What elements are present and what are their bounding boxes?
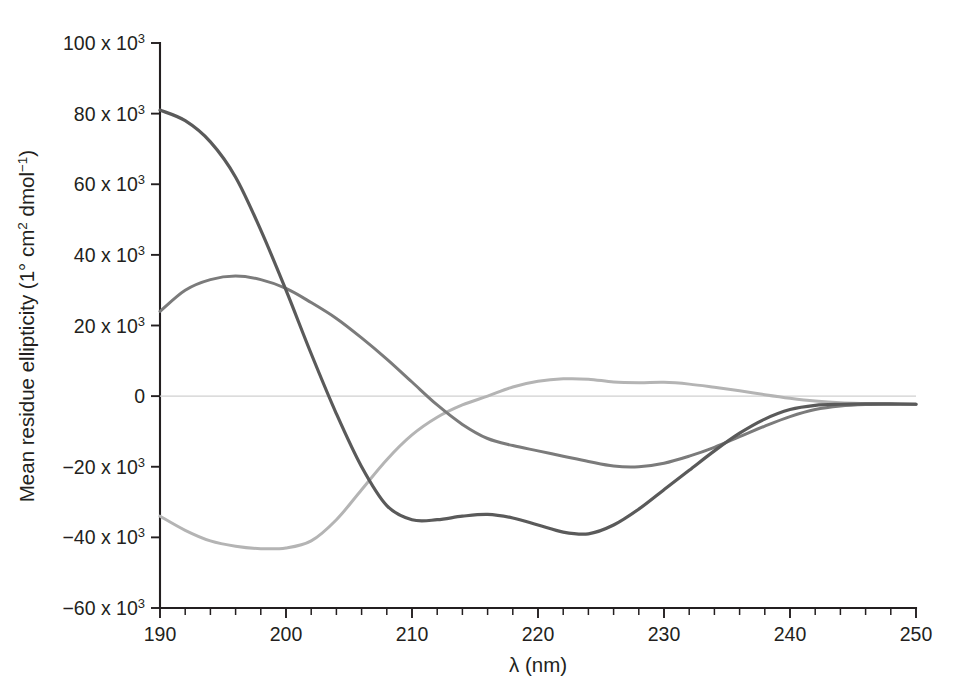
series-lines xyxy=(160,110,916,549)
y-axis-tick-label: 100 x 103 xyxy=(63,31,145,54)
y-axis xyxy=(151,43,160,608)
series-line-beta-sheet xyxy=(160,276,916,467)
x-axis-tick-label: 230 xyxy=(648,623,681,645)
x-axis xyxy=(160,608,916,618)
y-axis-title-sup-dmol: −1 xyxy=(15,157,30,172)
svg-text:Mean residue ellipticity (1° c: Mean residue ellipticity (1° cm2 dmol−1) xyxy=(15,150,38,502)
y-axis-tick-label: 20 x 103 xyxy=(74,314,145,337)
y-axis-tick-label: −40 x 103 xyxy=(62,525,145,548)
y-axis-title-mid: dmol xyxy=(15,172,38,222)
y-axis-tick-label: 60 x 103 xyxy=(74,172,145,195)
cd-spectra-figure: 100 x 10380 x 10360 x 10340 x 10320 x 10… xyxy=(0,0,965,698)
x-axis-tick-label: 220 xyxy=(522,623,555,645)
series-line-alpha-helix xyxy=(160,110,916,534)
y-axis-title-lead: Mean residue ellipticity (1° cm xyxy=(15,230,38,503)
y-axis-tick-label: −20 x 103 xyxy=(62,455,145,478)
x-axis-tick-label: 190 xyxy=(144,623,177,645)
y-axis-tick-label: 0 xyxy=(134,385,145,407)
y-axis-title: Mean residue ellipticity (1° cm2 dmol−1) xyxy=(15,150,38,502)
x-axis-tick-label: 250 xyxy=(900,623,933,645)
axis-tick-labels: 100 x 10380 x 10360 x 10340 x 10320 x 10… xyxy=(62,31,932,645)
y-axis-tick-label: 40 x 103 xyxy=(74,243,145,266)
y-axis-tick-label: 80 x 103 xyxy=(74,102,145,125)
y-axis-title-tail: ) xyxy=(15,150,38,157)
x-axis-tick-label: 200 xyxy=(270,623,303,645)
y-axis-tick-label: −60 x 103 xyxy=(62,596,145,619)
chart-canvas: 100 x 10380 x 10360 x 10340 x 10320 x 10… xyxy=(0,0,965,698)
x-axis-tick-label: 240 xyxy=(774,623,807,645)
x-axis-tick-label: 210 xyxy=(396,623,429,645)
y-axis-title-sup-cm2: 2 xyxy=(15,222,30,230)
x-axis-title: λ (nm) xyxy=(509,653,567,676)
